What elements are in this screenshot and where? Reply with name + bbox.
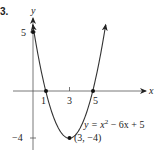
equation-rhs: − 6x + 5 (108, 119, 144, 130)
x-tick-label-1: 1 (41, 95, 46, 106)
y-tick-label-neg4: −4 (12, 132, 23, 143)
left-branch-arrow (33, 25, 34, 29)
vertex-label: (3, −4) (74, 132, 101, 144)
point-y-intercept (31, 30, 35, 34)
point-root-5 (91, 89, 95, 93)
point-vertex (68, 136, 72, 140)
equation-lhs: y = x (83, 119, 105, 130)
x-tick-label-3: 3 (67, 95, 72, 106)
y-axis-label: y (30, 5, 36, 16)
parabola-chart: y x 5 −4 1 3 5 y = x2 − 6x + 5 (3, −4) (0, 0, 161, 153)
y-tick-label-5: 5 (21, 27, 26, 38)
point-root-1 (44, 89, 48, 93)
equation-label: y = x2 − 6x + 5 (83, 118, 144, 130)
x-tick-label-5: 5 (93, 95, 98, 106)
right-branch-arrow (105, 25, 106, 29)
x-axis-label: x (148, 85, 154, 96)
